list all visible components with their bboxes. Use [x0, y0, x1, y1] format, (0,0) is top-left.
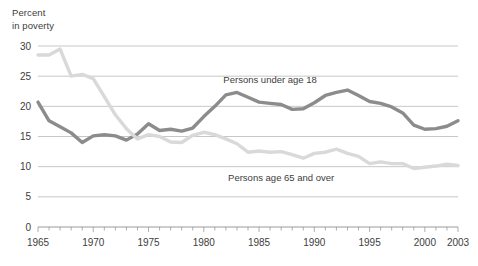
x-axis-tick-labels: 196519701975198019851990199520002003 — [27, 237, 470, 248]
series-label-0: Persons under age 18 — [223, 74, 316, 85]
x-tick-label-2000: 2000 — [414, 237, 437, 248]
x-tick-label-1985: 1985 — [248, 237, 271, 248]
data-series — [38, 49, 458, 168]
y-tick-label-5: 5 — [25, 191, 31, 202]
x-tick-label-1965: 1965 — [27, 237, 50, 248]
y-axis-tick-labels: 051015202530 — [20, 41, 32, 233]
x-tick-label-1970: 1970 — [82, 237, 105, 248]
series-label-1: Persons age 65 and over — [228, 172, 334, 183]
y-tick-label-0: 0 — [25, 222, 31, 233]
x-tick-label-1975: 1975 — [137, 237, 160, 248]
x-tick-label-1980: 1980 — [193, 237, 216, 248]
y-tick-label-25: 25 — [20, 71, 32, 82]
y-tick-label-30: 30 — [20, 41, 32, 52]
x-tick-label-2003: 2003 — [447, 237, 470, 248]
x-axis-ticks — [38, 227, 458, 232]
y-tick-label-15: 15 — [20, 131, 32, 142]
poverty-rate-chart: Percent in poverty 051015202530 19651970… — [0, 0, 478, 266]
series-line-0 — [38, 90, 458, 142]
chart-plot-area: 051015202530 196519701975198019851990199… — [0, 0, 478, 266]
x-tick-label-1990: 1990 — [303, 237, 326, 248]
x-tick-label-1995: 1995 — [358, 237, 381, 248]
y-tick-label-10: 10 — [20, 161, 32, 172]
y-tick-label-20: 20 — [20, 101, 32, 112]
